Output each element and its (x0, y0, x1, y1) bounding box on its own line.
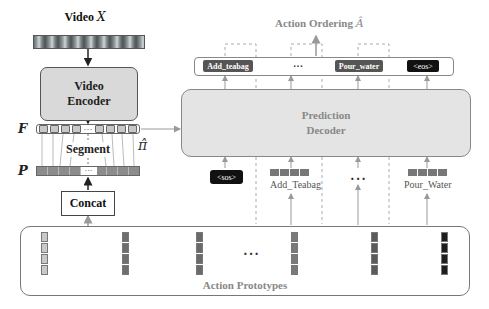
segment-sequence-p: ··· (36, 166, 140, 176)
output-token-eos: <eos> (407, 60, 439, 72)
video-symbol: X (97, 10, 106, 24)
output-sequence-bar: Add_teabag ··· Pour_water <eos> (194, 57, 454, 76)
encoder-label-line1: Video (67, 79, 110, 94)
feature-cell (39, 125, 48, 133)
video-label-text: Video (64, 10, 94, 24)
action-ordering-label: Action Ordering (275, 17, 353, 29)
p-label: P (18, 163, 28, 178)
concat-box: Concat (61, 191, 115, 216)
input-token-sos: <sos> (210, 170, 243, 184)
decoder-label-line1: Prediction (302, 108, 351, 123)
a-hat-symbol: Â (356, 17, 364, 30)
segment-cell (48, 167, 59, 175)
segment-cell (59, 167, 70, 175)
input-pour-water-label: Pour_Water (404, 179, 450, 190)
prototype-column (41, 232, 48, 275)
embedding-icon (270, 169, 314, 176)
action-prototypes-label: Action Prototypes (21, 279, 469, 291)
feature-ellipsis: ··· (84, 126, 93, 132)
embedding-icon (404, 169, 450, 176)
pi-hat-symbol: π̂ (138, 137, 147, 153)
video-encoder-box: Video Encoder (40, 67, 138, 121)
prediction-decoder-box: Prediction Decoder (181, 89, 471, 157)
segment-ellipsis: ··· (81, 167, 97, 175)
decoder-label-line2: Decoder (302, 123, 351, 138)
action-prototypes-box: ··· Action Prototypes (20, 226, 470, 296)
input-add-teabag-label: Add_Teabag (270, 179, 314, 190)
prototype-column (371, 232, 378, 275)
f-label: F (18, 121, 27, 136)
segment-cell (118, 167, 129, 175)
feature-cell (72, 125, 81, 133)
input-add-teabag: Add_Teabag (270, 169, 314, 190)
action-ordering-title: Action Ordering Â (275, 17, 364, 30)
feature-cell (61, 125, 70, 133)
prototype-column (122, 232, 129, 275)
output-token-ellipsis: ··· (283, 60, 313, 72)
encoder-label-line2: Encoder (67, 94, 110, 109)
feature-cell (95, 125, 104, 133)
input-pour-water: Pour_Water (404, 169, 450, 190)
prototype-column (441, 232, 448, 275)
segment-label: Segment (65, 142, 111, 157)
feature-cell (128, 125, 137, 133)
video-frames-strip (33, 35, 145, 49)
output-token-add-teabag: Add_teabag (203, 60, 253, 72)
prototype-column (196, 232, 203, 275)
feature-cell (117, 125, 126, 133)
segment-cell (97, 167, 108, 175)
feature-sequence-f: ··· (36, 124, 140, 134)
segment-cell (70, 167, 81, 175)
input-ellipsis: ··· (350, 172, 367, 188)
prototypes-ellipsis: ··· (243, 247, 260, 263)
video-label: Video X (30, 10, 140, 25)
segment-cell (37, 167, 48, 175)
output-token-pour-water: Pour_water (335, 60, 383, 72)
prototype-column (291, 232, 298, 275)
segment-cell (129, 167, 139, 175)
segment-cell (107, 167, 118, 175)
feature-cell (50, 125, 59, 133)
feature-cell (106, 125, 115, 133)
